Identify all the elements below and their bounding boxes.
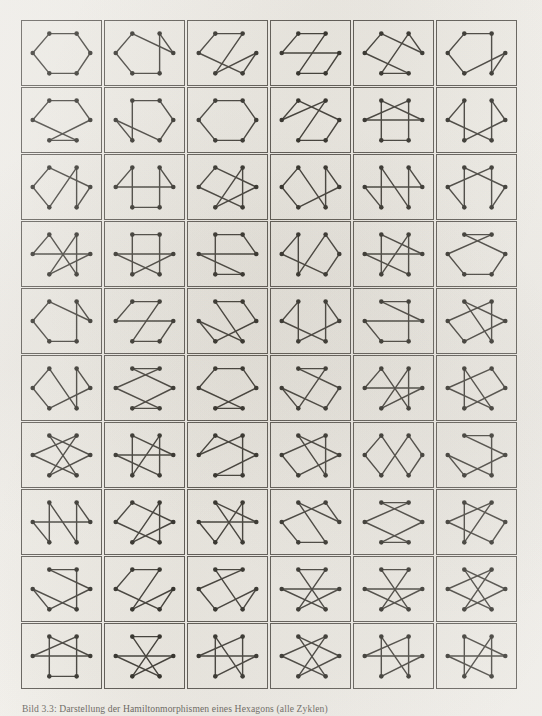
graph-vertex: [74, 98, 79, 103]
graph-cell: [436, 87, 517, 153]
graph-vertex: [213, 31, 218, 36]
graph-cell: [21, 489, 102, 555]
graph-vertex: [157, 339, 162, 344]
graph-edge: [132, 436, 173, 455]
graph-vertex: [74, 299, 79, 304]
graph-vertex: [47, 71, 52, 76]
graph-vertex: [406, 165, 411, 170]
graph-vertex: [323, 31, 328, 36]
graph-vertex: [240, 205, 245, 210]
graph-edge: [215, 455, 256, 475]
graph-edge: [326, 302, 340, 321]
graph-edge: [464, 436, 505, 455]
graph-vertex: [74, 205, 79, 210]
graph-edge: [33, 369, 50, 388]
graph-edge: [77, 369, 91, 388]
graph-vertex: [113, 252, 118, 257]
graph-vertex: [240, 138, 245, 143]
graph-edge: [409, 168, 423, 187]
graph-vertex: [489, 540, 494, 545]
graph-vertex: [406, 473, 411, 478]
graph-cell: [270, 489, 351, 555]
graph-cell: [104, 623, 185, 689]
graph-edge: [326, 120, 340, 140]
graph-vertex: [157, 607, 162, 612]
graph-vertex: [47, 500, 52, 505]
graph-edge: [199, 589, 216, 609]
graph-vertex: [130, 406, 135, 411]
graph-cell: [21, 623, 102, 689]
graph-vertex: [296, 31, 301, 36]
graph-edge: [116, 53, 133, 73]
graph-edge: [33, 388, 50, 408]
graph-cell: [436, 355, 517, 421]
graph-edge: [33, 522, 50, 542]
graph-vertex: [337, 252, 342, 257]
graph-edge: [282, 302, 299, 321]
graph-edge: [199, 120, 216, 140]
graph-vertex: [74, 473, 79, 478]
graph-vertex: [279, 252, 284, 257]
graph-vertex: [489, 433, 494, 438]
graph-vertex: [47, 473, 52, 478]
graph-cell: [270, 20, 351, 86]
graph-vertex: [503, 118, 508, 123]
graph-edge: [215, 656, 256, 676]
graph-cell: [187, 221, 268, 287]
graph-vertex: [323, 567, 328, 572]
graph-vertex: [157, 71, 162, 76]
graph-edge: [33, 187, 50, 207]
graph-cell: [436, 422, 517, 488]
graph-vertex: [445, 453, 450, 458]
graph-vertex: [171, 386, 176, 391]
graph-vertex: [113, 51, 118, 56]
graph-vertex: [196, 386, 201, 391]
graph-vertex: [213, 406, 218, 411]
graph-edge: [116, 570, 133, 589]
graph-edge: [365, 53, 409, 73]
graph-vertex: [296, 232, 301, 237]
figure-caption: Bild 3.3: Darstellung der Hamiltonmorphi…: [22, 703, 527, 715]
graph-vertex: [74, 406, 79, 411]
graph-edge: [160, 168, 174, 187]
graph-vertex: [240, 71, 245, 76]
graph-vertex: [47, 634, 52, 639]
graph-vertex: [379, 366, 384, 371]
graph-vertex: [47, 299, 52, 304]
graph-cell: [353, 288, 434, 354]
graph-vertex: [213, 500, 218, 505]
graph-vertex: [503, 319, 508, 324]
graph-vertex: [379, 473, 384, 478]
graph-edge: [199, 369, 216, 388]
graph-vertex: [130, 98, 135, 103]
graph-vertex: [323, 634, 328, 639]
graph-vertex: [323, 540, 328, 545]
graph-vertex: [462, 299, 467, 304]
graph-cell: [436, 288, 517, 354]
graph-edge: [33, 589, 50, 609]
graph-vertex: [462, 272, 467, 277]
graph-edge: [199, 101, 216, 120]
graph-vertex: [462, 567, 467, 572]
graph-vertex: [323, 339, 328, 344]
graph-vertex: [337, 51, 342, 56]
graph-vertex: [406, 406, 411, 411]
graph-vertex: [279, 386, 284, 391]
graph-vertex: [113, 118, 118, 123]
graph-vertex: [130, 165, 135, 170]
graph-vertex: [296, 540, 301, 545]
graph-vertex: [113, 185, 118, 190]
graph-vertex: [379, 339, 384, 344]
graph-cell: [21, 87, 102, 153]
graph-vertex: [157, 406, 162, 411]
graph-vertex: [240, 31, 245, 36]
graph-edge: [199, 522, 216, 542]
graph-vertex: [503, 587, 508, 592]
graph-edge: [464, 637, 505, 656]
graph-vertex: [157, 165, 162, 170]
graph-vertex: [296, 473, 301, 478]
graph-vertex: [489, 366, 494, 371]
graph-vertex: [74, 366, 79, 371]
graph-vertex: [323, 433, 328, 438]
graph-vertex: [296, 674, 301, 679]
